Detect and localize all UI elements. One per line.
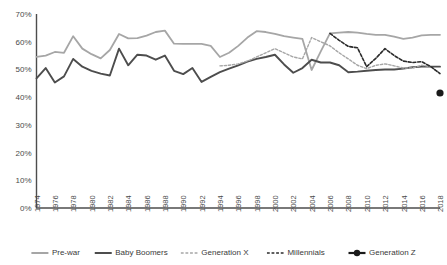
legend-item-generation-z[interactable]: Generation Z (349, 248, 416, 257)
chart-plot-area: 0%10%20%30%40%50%60%70% 1974197619781980… (0, 0, 447, 265)
legend-marker-icon (354, 250, 360, 256)
x-axis-tick-label: 1976 (51, 195, 60, 212)
x-axis-tick-label: 2002 (289, 195, 298, 212)
series-line-generation-x (220, 38, 440, 74)
y-axis-tick-label: 70% (15, 10, 31, 19)
y-axis-ticks: 0%10%20%30%40%50%60%70% (15, 10, 31, 213)
x-axis-tick-label: 1992 (198, 195, 207, 212)
legend-label: Baby Boomers (115, 248, 167, 257)
x-axis-tick-label: 2018 (436, 195, 445, 212)
x-axis-tick-label: 1994 (216, 195, 225, 212)
x-axis-tick-label: 1998 (253, 195, 262, 212)
y-axis-tick-label: 20% (15, 149, 31, 158)
x-axis-tick-label: 1990 (179, 195, 188, 212)
line-chart: 0%10%20%30%40%50%60%70% 1974197619781980… (0, 0, 447, 265)
legend-label: Generation X (201, 248, 249, 257)
x-axis-tick-label: 2012 (381, 195, 390, 212)
legend-label: Millennials (287, 248, 324, 257)
x-axis-tick-label: 2006 (326, 195, 335, 212)
x-axis-tick-label: 2008 (344, 195, 353, 212)
x-axis-tick-label: 2014 (400, 195, 409, 212)
series-line-baby-boomers (37, 49, 441, 83)
x-axis-tick-label: 1982 (106, 195, 115, 212)
x-axis-tick-label: 1974 (33, 195, 42, 212)
y-axis-tick-label: 40% (15, 93, 31, 102)
y-axis-tick-label: 50% (15, 65, 31, 74)
legend-item-millennials[interactable]: Millennials (267, 248, 325, 257)
y-axis-tick-label: 10% (15, 176, 31, 185)
x-axis-tick-label: 2000 (271, 195, 280, 212)
chart-axes (37, 14, 441, 208)
x-axis-tick-label: 1988 (161, 195, 170, 212)
legend-item-pre-war[interactable]: Pre-war (31, 248, 80, 257)
chart-series-group (37, 31, 444, 97)
legend-item-baby-boomers[interactable]: Baby Boomers (95, 248, 168, 257)
data-point-marker (436, 89, 443, 96)
legend-label: Generation Z (369, 248, 416, 257)
x-axis-tick-label: 1978 (69, 195, 78, 212)
x-axis-tick-label: 1980 (88, 195, 97, 212)
x-axis-ticks: 1974197619781980198219841986198819901992… (33, 195, 446, 212)
y-axis-tick-label: 30% (15, 121, 31, 130)
y-axis-tick-label: 60% (15, 38, 31, 47)
legend-item-generation-x[interactable]: Generation X (181, 248, 249, 257)
x-axis-tick-label: 2004 (308, 195, 317, 212)
x-axis-tick-label: 2016 (418, 195, 427, 212)
y-axis-tick-label: 0% (20, 204, 32, 213)
legend-label: Pre-war (52, 248, 80, 257)
x-axis-tick-label: 2010 (363, 195, 372, 212)
x-axis-tick-label: 1996 (234, 195, 243, 212)
x-axis-tick-label: 1986 (143, 195, 152, 212)
chart-legend: Pre-warBaby BoomersGeneration XMillennia… (31, 248, 415, 257)
axis-lines (37, 14, 441, 208)
x-axis-tick-label: 1984 (124, 195, 133, 212)
